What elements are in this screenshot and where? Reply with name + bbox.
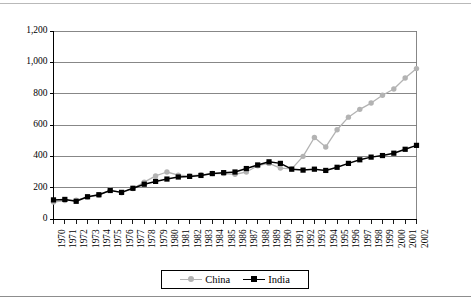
x-axis-label-1991: 1991 [296, 229, 305, 248]
legend-label-india: India [268, 274, 290, 285]
x-axis-label-1971: 1971 [69, 229, 78, 248]
data-point-india-1996 [346, 161, 351, 166]
data-point-china-1980 [164, 169, 169, 174]
x-axis-label-1982: 1982 [194, 229, 203, 248]
line-chart-plot [0, 0, 471, 307]
series-line-india [51, 143, 419, 204]
x-axis-label-1981: 1981 [182, 229, 191, 248]
data-point-india-1993 [312, 167, 317, 172]
data-point-india-1995 [334, 165, 339, 170]
data-point-china-2001 [402, 75, 407, 80]
x-axis-label-2000: 2000 [398, 229, 407, 248]
data-point-india-1982 [187, 174, 192, 179]
data-point-india-1979 [153, 179, 158, 184]
data-point-china-2000 [391, 86, 396, 91]
x-axis-label-1983: 1983 [205, 229, 214, 248]
data-point-india-1998 [369, 155, 374, 160]
data-point-india-1988 [255, 162, 260, 167]
y-axis-label-800: 800 [33, 89, 47, 99]
x-axis-label-1980: 1980 [171, 229, 180, 248]
data-point-china-1990 [278, 165, 283, 170]
data-point-india-1992 [300, 168, 305, 173]
data-point-china-1995 [334, 127, 339, 132]
data-point-china-1994 [323, 144, 328, 149]
x-axis-label-1976: 1976 [126, 229, 135, 248]
data-point-china-1996 [346, 114, 351, 119]
data-point-india-1980 [164, 176, 169, 181]
x-axis-label-1979: 1979 [160, 229, 169, 248]
data-point-india-1985 [221, 170, 226, 175]
x-axis-label-1993: 1993 [318, 229, 327, 248]
data-point-india-2000 [391, 151, 396, 156]
x-axis-label-1994: 1994 [330, 229, 339, 248]
x-axis-label-1970: 1970 [58, 229, 67, 248]
data-point-india-1975 [108, 188, 113, 193]
data-point-india-1991 [289, 167, 294, 172]
x-axis-label-1992: 1992 [307, 229, 316, 248]
data-point-india-1976 [119, 190, 124, 195]
data-point-china-1979 [153, 173, 158, 178]
x-axis-label-1986: 1986 [239, 229, 248, 248]
x-axis-label-1972: 1972 [80, 229, 89, 248]
x-axis-label-1975: 1975 [114, 229, 123, 248]
data-point-india-1977 [130, 186, 135, 191]
data-point-china-2002 [414, 66, 419, 71]
legend-item-china[interactable]: China [180, 274, 230, 285]
legend-marker-square-icon [251, 276, 257, 282]
y-axis-label-1200: 1,200 [26, 26, 47, 36]
data-point-india-1989 [266, 159, 271, 164]
data-point-india-1990 [278, 161, 283, 166]
data-point-india-1974 [96, 192, 101, 197]
data-point-china-1993 [312, 135, 317, 140]
legend-marker-circle-icon [188, 276, 194, 282]
x-axis-label-1984: 1984 [216, 229, 225, 248]
line-path-china [54, 69, 417, 202]
x-axis-label-1988: 1988 [262, 229, 271, 248]
x-axis-label-1989: 1989 [273, 229, 282, 248]
x-tick-marks-group [54, 219, 417, 224]
x-axis-label-1990: 1990 [284, 229, 293, 248]
data-point-india-1981 [176, 174, 181, 179]
data-point-india-1986 [232, 169, 237, 174]
x-axis-label-1997: 1997 [364, 229, 373, 248]
data-point-india-1999 [380, 153, 385, 158]
data-point-india-1987 [244, 166, 249, 171]
chart-figure: 02004006008001,0001,200 1970197119721973… [0, 0, 471, 307]
data-point-india-2001 [403, 147, 408, 152]
data-point-india-1973 [85, 194, 90, 199]
x-axis-label-1998: 1998 [375, 229, 384, 248]
data-point-china-1992 [300, 154, 305, 159]
data-point-india-1972 [74, 199, 79, 204]
x-axis-label-1974: 1974 [103, 229, 112, 248]
series-line-china [51, 66, 419, 205]
y-axis-label-0: 0 [43, 214, 48, 224]
data-point-china-1998 [368, 100, 373, 105]
x-axis-label-1978: 1978 [148, 229, 157, 248]
data-point-china-1997 [357, 107, 362, 112]
x-axis-label-1996: 1996 [352, 229, 361, 248]
x-axis-label-1987: 1987 [250, 229, 259, 248]
chart-legend: ChinaIndia [161, 270, 309, 289]
x-axis-label-1973: 1973 [92, 229, 101, 248]
data-point-india-2002 [414, 143, 419, 148]
legend-swatch-india [243, 275, 265, 284]
y-axis-label-600: 600 [33, 120, 47, 130]
y-axis-label-1000: 1,000 [26, 57, 47, 67]
y-axis-label-200: 200 [33, 183, 47, 193]
x-axis-label-2002: 2002 [421, 229, 430, 248]
y-axis-label-400: 400 [33, 151, 47, 161]
legend-swatch-china [180, 275, 202, 284]
data-point-india-1984 [210, 171, 215, 176]
x-axis-label-1999: 1999 [386, 229, 395, 248]
x-axis-label-1995: 1995 [341, 229, 350, 248]
x-axis-label-2001: 2001 [409, 229, 418, 248]
data-point-india-1997 [357, 157, 362, 162]
legend-item-india[interactable]: India [243, 274, 290, 285]
legend-label-china: China [205, 274, 230, 285]
data-point-india-1983 [198, 173, 203, 178]
data-point-china-1999 [380, 93, 385, 98]
data-point-india-1994 [323, 168, 328, 173]
data-point-india-1970 [51, 197, 56, 202]
x-axis-label-1985: 1985 [228, 229, 237, 248]
x-axis-label-1977: 1977 [137, 229, 146, 248]
